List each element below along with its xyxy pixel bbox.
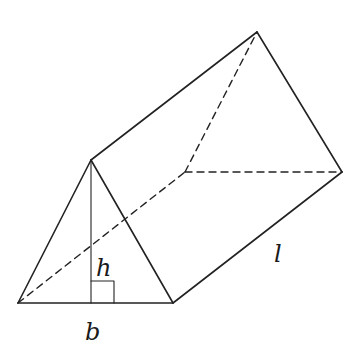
- hidden-back-left-edge: [185, 32, 257, 172]
- hidden-bottom-left-edge: [18, 172, 185, 303]
- right-angle-marker: [91, 281, 114, 303]
- base-label: b: [85, 318, 100, 346]
- triangular-prism-diagram: h b l: [0, 0, 361, 363]
- height-label: h: [96, 254, 111, 282]
- length-label: l: [274, 240, 282, 268]
- front-left-edge: [18, 160, 91, 303]
- back-right-edge: [257, 32, 342, 172]
- bottom-right-edge: [173, 172, 342, 303]
- top-ridge-edge: [91, 32, 257, 160]
- prism-svg: h b l: [0, 0, 361, 363]
